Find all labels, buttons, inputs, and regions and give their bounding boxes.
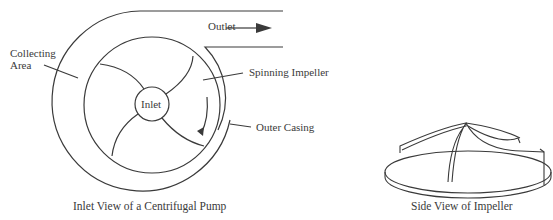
pump-caption: Inlet View of a Centrifugal Pump xyxy=(73,200,226,212)
spinning-impeller-label: Spinning Impeller xyxy=(249,66,329,78)
impeller-blade xyxy=(100,64,144,89)
outer-casing xyxy=(52,11,283,191)
collecting-area-label-line1: Collecting xyxy=(10,47,56,59)
outlet-label: Outlet xyxy=(208,20,236,32)
impeller-blade xyxy=(166,56,193,94)
outlet-arrow-head xyxy=(256,23,272,33)
diagram-canvas xyxy=(0,0,553,220)
outlet-lower-edge xyxy=(205,47,283,130)
impeller-blade xyxy=(112,114,138,156)
impeller-blade xyxy=(162,118,204,146)
collecting-area-label-line2: Area xyxy=(10,59,31,71)
impeller-caption: Side View of Impeller xyxy=(411,200,513,212)
outer-casing-leader xyxy=(230,124,251,127)
impeller-side-view xyxy=(385,123,551,198)
inlet-label: Inlet xyxy=(141,98,161,110)
rotation-arrowhead xyxy=(197,127,204,136)
outer-casing-label: Outer Casing xyxy=(256,121,314,133)
collecting-area-leader xyxy=(44,65,78,78)
